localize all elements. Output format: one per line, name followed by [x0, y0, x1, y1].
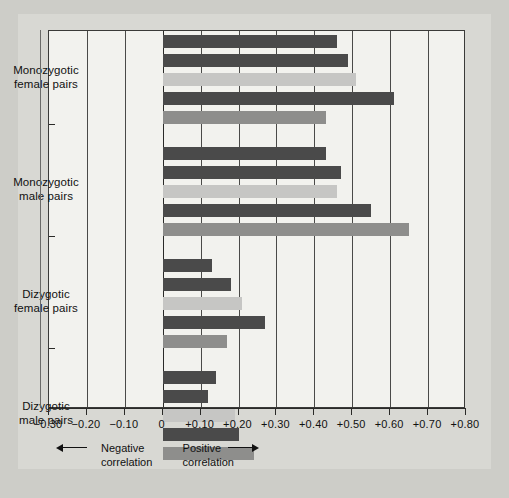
gridline-0.2 [239, 31, 240, 407]
negative-arrow-line [63, 447, 87, 448]
bar-g2-3 [163, 316, 265, 329]
table-row [49, 278, 466, 291]
table-row [49, 371, 466, 384]
x-axis: −0.30−0.20−0.100+0.10+0.20+0.30+0.40+0.5… [48, 408, 465, 468]
table-row [49, 223, 466, 236]
group-label-1: Monozygoticmale pairs [0, 175, 106, 204]
bar-g3-1 [163, 390, 208, 403]
figure-panel: Monozygoticfemale pairsMonozygoticmale p… [18, 14, 491, 469]
positive-arrow-line [228, 447, 252, 448]
gridline-0.1 [201, 31, 202, 407]
table-row [49, 35, 466, 48]
group-label-line1: Dizygotic [0, 287, 106, 302]
tick-+0.50 [351, 408, 352, 415]
bar-g1-4 [163, 223, 409, 236]
table-row [49, 204, 466, 217]
tick--0.20 [86, 408, 87, 415]
gridline-0.4 [314, 31, 315, 407]
bar-g3-0 [163, 371, 216, 384]
tick-label-+0.40: +0.40 [299, 418, 328, 430]
group-label-line1: Monozygotic [0, 63, 106, 78]
tick--0.10 [124, 408, 125, 415]
tick-label-0: 0 [159, 418, 165, 430]
positive-correlation-note: Positivecorrelation [183, 442, 234, 470]
group-label-line2: female pairs [0, 77, 106, 92]
note-line1: Negative [101, 442, 152, 456]
bar-g0-0 [163, 35, 337, 48]
table-row [49, 73, 466, 86]
negative-correlation-note: Negativecorrelation [101, 442, 152, 470]
tick-+0.60 [389, 408, 390, 415]
table-row [49, 335, 466, 348]
group-separator-tick [49, 124, 55, 125]
group-label-0: Monozygoticfemale pairs [0, 63, 106, 92]
group-label-line1: Monozygotic [0, 175, 106, 190]
axis-spine [48, 408, 465, 409]
gridline-0.6 [390, 31, 391, 407]
bar-g1-2 [163, 185, 337, 198]
table-row [49, 92, 466, 105]
tick-+0.40 [313, 408, 314, 415]
tick-0 [162, 408, 163, 415]
bar-g2-2 [163, 297, 243, 310]
tick-label-+0.20: +0.20 [223, 418, 252, 430]
tick-+0.20 [238, 408, 239, 415]
tick-label--0.10: −0.10 [109, 418, 138, 430]
group-separator-tick [49, 348, 55, 349]
table-row [49, 147, 466, 160]
tick--0.30 [48, 408, 49, 415]
bar-g2-0 [163, 259, 212, 272]
bar-g1-1 [163, 166, 341, 179]
gridline--0.1 [125, 31, 126, 407]
table-row [49, 54, 466, 67]
note-line2: correlation [183, 456, 234, 470]
group-label-line2: male pairs [0, 189, 106, 204]
negative-arrow-head-icon [56, 444, 63, 452]
table-row [49, 111, 466, 124]
positive-arrow-head-icon [252, 444, 259, 452]
tick-label--0.20: −0.20 [71, 418, 100, 430]
table-row [49, 166, 466, 179]
bar-g2-4 [163, 335, 227, 348]
tick-label-+0.80: +0.80 [451, 418, 480, 430]
tick-label-+0.50: +0.50 [337, 418, 366, 430]
note-line2: correlation [101, 456, 152, 470]
tick-label-+0.70: +0.70 [413, 418, 442, 430]
gridline-0.5 [352, 31, 353, 407]
bar-g0-3 [163, 92, 394, 105]
label-gutter-rule-1 [40, 30, 41, 408]
tick-+0.10 [200, 408, 201, 415]
tick-label-+0.60: +0.60 [375, 418, 404, 430]
group-separator-tick [49, 236, 55, 237]
note-line1: Positive [183, 442, 234, 456]
bar-g0-4 [163, 111, 326, 124]
table-row [49, 297, 466, 310]
tick-+0.70 [427, 408, 428, 415]
table-row [49, 316, 466, 329]
tick-label--0.30: −0.30 [34, 418, 63, 430]
group-label-2: Dizygoticfemale pairs [0, 287, 106, 316]
bar-g1-0 [163, 147, 326, 160]
tick-+0.30 [275, 408, 276, 415]
tick-label-+0.30: +0.30 [261, 418, 290, 430]
gridline-0 [163, 31, 164, 407]
bar-g2-1 [163, 278, 231, 291]
group-label-line2: female pairs [0, 301, 106, 316]
table-row [49, 259, 466, 272]
bar-g0-2 [163, 73, 356, 86]
tick-label-+0.10: +0.10 [185, 418, 214, 430]
bar-g0-1 [163, 54, 349, 67]
gridline-0.7 [428, 31, 429, 407]
chart-plot-area [48, 30, 465, 408]
gridline-0.3 [276, 31, 277, 407]
table-row [49, 185, 466, 198]
table-row [49, 390, 466, 403]
tick-+0.80 [465, 408, 466, 415]
bar-g1-3 [163, 204, 372, 217]
